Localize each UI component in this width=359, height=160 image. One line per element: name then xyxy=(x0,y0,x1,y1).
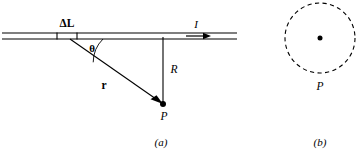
point-p-dot xyxy=(160,101,166,107)
panel-a-caption: (a) xyxy=(155,136,168,149)
current-arrow-head xyxy=(203,33,211,40)
physics-figure: ΔL I θ r R P (a) xyxy=(0,0,359,160)
panel-b: P (b) xyxy=(285,3,355,149)
delta-l-label: ΔL xyxy=(60,17,75,29)
figure-canvas: ΔL I θ r R P (a) xyxy=(0,0,359,160)
current-arrow xyxy=(186,33,211,40)
r-distance-label: R xyxy=(169,63,177,75)
wire-cross-section-dot xyxy=(318,36,323,41)
current-label: I xyxy=(193,18,199,30)
theta-label: θ xyxy=(89,42,95,54)
r-vector-label: r xyxy=(101,79,106,91)
point-p-label: P xyxy=(159,110,167,122)
r-vector xyxy=(70,39,163,104)
panel-a: ΔL I θ r R P (a) xyxy=(2,17,237,149)
panel-b-point-p-label: P xyxy=(315,80,323,92)
r-vector-shaft xyxy=(70,39,156,99)
panel-b-caption: (b) xyxy=(314,136,327,149)
